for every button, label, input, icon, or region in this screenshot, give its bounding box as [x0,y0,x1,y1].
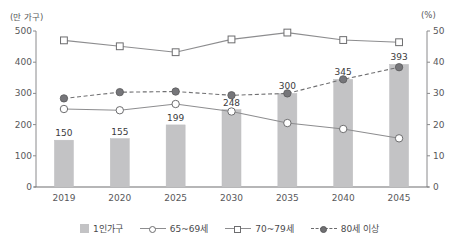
y-axis-tick-label: 500 [0,26,32,36]
y2-axis-tick-label: 40 [433,57,459,67]
y2-axis-tick-label: 0 [433,182,459,192]
bar-value-label: 393 [390,52,407,62]
plot-area [0,0,459,245]
y2-axis-tick-label: 10 [433,151,459,161]
legend-label: 65~69세 [170,222,208,235]
legend-label: 80세 이상 [341,222,379,235]
y-axis-tick-label: 0 [0,182,32,192]
y-axis-tick-label: 100 [0,151,32,161]
y-axis-tick-label: 400 [0,57,32,67]
y-axis-tick-label: 200 [0,120,32,130]
legend-line-swatch [140,224,166,233]
legend-line-swatch [225,224,251,233]
y2-axis-tick-label: 50 [433,26,459,36]
x-axis-tick-label: 2025 [164,193,187,203]
x-axis-tick-label: 2040 [332,193,355,203]
legend-label: 70~79세 [255,222,293,235]
chart-container: (만 가구) (%) 2019202020252030203520402045 … [0,0,459,245]
bar-value-label: 345 [335,67,352,77]
x-axis-tick-label: 2020 [108,193,131,203]
bar-value-label: 150 [55,128,72,138]
legend-item-2[interactable]: 65~69세 [140,222,208,235]
legend-item-4[interactable]: 80세 이상 [311,222,379,235]
legend-item-1[interactable]: 1인가구 [80,222,123,235]
x-axis-tick-label: 2045 [388,193,411,203]
bar-value-label: 248 [223,98,240,108]
chart-legend: 1인가구65~69세70~79세80세 이상 [0,222,459,235]
legend-label: 1인가구 [93,222,123,235]
bar-value-label: 300 [279,81,296,91]
bar-value-label: 199 [167,113,184,123]
x-axis-tick-label: 2019 [52,193,75,203]
legend-line-swatch [311,224,337,233]
bar-value-label: 155 [111,127,128,137]
legend-item-3[interactable]: 70~79세 [225,222,293,235]
x-axis-tick-label: 2030 [220,193,243,203]
x-axis-tick-label: 2035 [276,193,299,203]
y-axis-tick-label: 300 [0,88,32,98]
y2-axis-tick-label: 30 [433,88,459,98]
y2-axis-tick-label: 20 [433,120,459,130]
legend-bar-swatch [80,224,89,233]
